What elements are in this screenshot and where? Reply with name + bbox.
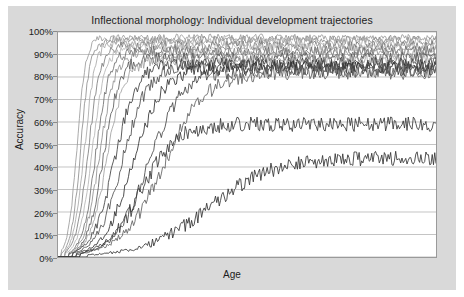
y-tick-label: 80%	[13, 71, 53, 82]
trajectory-line	[58, 61, 436, 257]
y-tick-label: 70%	[13, 94, 53, 105]
trajectory-line	[58, 63, 436, 257]
trajectories-svg	[58, 32, 436, 257]
y-tick-label: 10%	[13, 230, 53, 241]
trajectory-line	[58, 48, 436, 257]
y-tick-mark	[53, 258, 57, 259]
trajectory-line	[58, 46, 436, 257]
trajectory-line	[58, 43, 436, 257]
y-tick-label: 60%	[13, 116, 53, 127]
x-axis-label: Age	[8, 269, 456, 280]
trajectory-line	[58, 59, 436, 257]
y-tick-label: 90%	[13, 48, 53, 59]
y-tick-label: 50%	[13, 139, 53, 150]
y-tick-label: 30%	[13, 184, 53, 195]
y-tick-label: 40%	[13, 162, 53, 173]
trajectory-line	[58, 41, 436, 257]
y-tick-label: 0%	[13, 253, 53, 264]
y-tick-label: 20%	[13, 207, 53, 218]
y-axis-ticks: 100%90%80%70%60%50%40%30%20%10%0%	[8, 31, 53, 258]
trajectory-line	[58, 57, 436, 257]
chart-title: Inflectional morphology: Individual deve…	[8, 14, 456, 26]
y-tick-label: 100%	[13, 26, 53, 37]
chart-figure: Inflectional morphology: Individual deve…	[8, 6, 456, 290]
trajectory-line	[58, 52, 436, 257]
plot-area	[57, 31, 437, 258]
